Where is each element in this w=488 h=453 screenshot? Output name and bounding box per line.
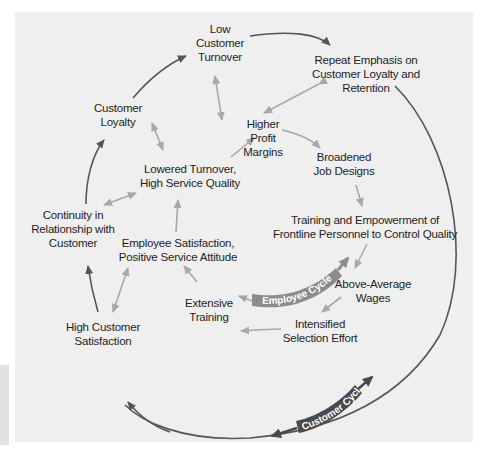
arrow-high-satisfaction-to-continuity [88, 266, 98, 312]
arrow-extensive-training-to-satisfaction [184, 266, 197, 282]
arrow-loyalty-lowered-turnover [152, 123, 163, 150]
arrow-high-satisfaction-to-employee-satisfaction [113, 268, 128, 312]
arrow-low-turnover-profit [215, 76, 222, 120]
node-lowered-turnover: Lowered Turnover, High Service Quality [140, 162, 240, 190]
node-repeat-emphasis: Repeat Emphasis on Customer Loyalty and … [312, 53, 420, 95]
arrow-continuity-lowered-turnover [104, 193, 136, 205]
node-high-customer-satisfaction: High Customer Satisfaction [66, 320, 140, 348]
arrow-selection-to-training [241, 329, 281, 331]
node-intensified-selection: Intensified Selection Effort [283, 317, 358, 345]
node-training-empowerment: Training and Empowerment of Frontline Pe… [273, 213, 457, 241]
arrow-continuity-to-loyalty [86, 140, 104, 204]
node-low-customer-turnover: Low Customer Turnover [196, 22, 244, 64]
node-broadened-job-designs: Broadened Job Designs [313, 150, 374, 178]
node-customer-loyalty: Customer Loyalty [94, 101, 142, 129]
arrow-repeat-profit [264, 84, 319, 113]
node-higher-profit-margins: Higher Profit Margins [243, 117, 283, 159]
arrow-profit-to-broadened [282, 130, 320, 148]
arrow-employee-satisfaction-to-lowered [176, 200, 178, 232]
arrow-training-to-wages [355, 244, 367, 268]
node-continuity-relationship: Continuity in Relationship with Customer [31, 208, 115, 250]
arrow-low-turnover-to-repeat [250, 33, 330, 45]
arrow-employee-cycle-to-extensive [239, 296, 252, 301]
node-extensive-training: Extensive Training [185, 296, 233, 324]
node-above-average-wages: Above-Average Wages [335, 277, 411, 305]
arrow-broadened-to-training [356, 185, 362, 206]
arrow-loyalty-to-low-turnover [133, 56, 186, 98]
node-employee-satisfaction: Employee Satisfaction, Positive Service … [119, 236, 237, 264]
